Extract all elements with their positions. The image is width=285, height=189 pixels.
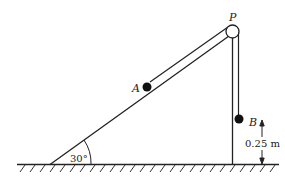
particle-a <box>143 83 152 92</box>
label-b: B <box>248 116 257 129</box>
label-a: A <box>131 82 140 95</box>
ground-hatching <box>20 165 275 172</box>
label-p: P <box>228 11 237 24</box>
pulley <box>226 25 239 38</box>
ground <box>17 165 279 173</box>
particle-b <box>235 115 244 124</box>
diagram-canvas: P A B 30° 0.25 m <box>0 0 285 189</box>
string-a <box>150 27 228 82</box>
label-angle: 30° <box>70 153 88 164</box>
inclined-plane <box>50 36 229 165</box>
label-height: 0.25 m <box>245 138 280 149</box>
